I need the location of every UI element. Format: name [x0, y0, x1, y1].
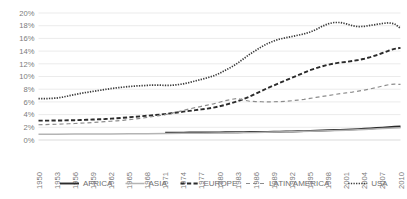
y-axis-tick-label: 6% — [24, 98, 35, 107]
data-series — [39, 23, 401, 135]
y-axis-tick-label: 10% — [19, 72, 34, 81]
y-axis-tick-label: 12% — [19, 60, 34, 69]
line-chart: 0%2%4%6%8%10%12%14%16%18%20% 19501953195… — [0, 0, 407, 199]
series-line-usa — [39, 23, 401, 99]
y-axis-tick-label: 18% — [19, 21, 34, 30]
y-axis-tick-label: 0% — [24, 136, 35, 145]
x-axis-tick-label: 2004 — [360, 172, 369, 189]
x-axis-tick-label: 1953 — [53, 172, 62, 189]
y-axis-tick-label: 2% — [24, 123, 35, 132]
x-axis-tick-label: 1965 — [125, 172, 134, 189]
chart-legend: AFRICAASIAEUROPELATIN AMERICAUSA — [60, 179, 388, 188]
legend-label-latin-america: LATIN AMERICA — [269, 179, 330, 188]
x-axis-tick-label: 1956 — [71, 172, 80, 189]
gridlines — [39, 13, 401, 140]
legend-label-europe: EUROPE — [204, 179, 238, 188]
y-axis-tick-labels: 0%2%4%6%8%10%12%14%16%18%20% — [19, 9, 34, 145]
chart-container: 0%2%4%6%8%10%12%14%16%18%20% 19501953195… — [0, 0, 407, 199]
y-axis-tick-label: 16% — [19, 34, 34, 43]
x-axis-tick-label: 2001 — [342, 172, 351, 189]
y-axis-tick-label: 14% — [19, 47, 34, 56]
legend-label-africa: AFRICA — [83, 179, 113, 188]
legend-label-usa: USA — [371, 179, 388, 188]
y-axis-tick-label: 8% — [24, 85, 35, 94]
x-axis-tick-label: 1974 — [179, 172, 188, 189]
series-line-europe — [39, 48, 401, 121]
x-axis-tick-label: 1986 — [252, 172, 261, 189]
x-axis-tick-label: 2010 — [397, 172, 406, 189]
legend-label-asia: ASIA — [149, 179, 168, 188]
y-axis-tick-label: 4% — [24, 110, 35, 119]
y-axis-tick-label: 20% — [19, 9, 34, 18]
x-axis-tick-label: 1950 — [35, 172, 44, 189]
